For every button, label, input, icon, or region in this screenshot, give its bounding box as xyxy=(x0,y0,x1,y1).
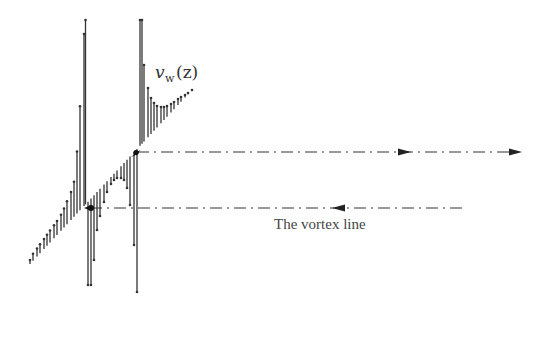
arrow-right-icon xyxy=(509,149,522,156)
vortex-line-label: The vortex line xyxy=(274,216,366,232)
arrow-right-icon xyxy=(398,149,411,156)
svg-text:w: w xyxy=(165,72,175,85)
upper-vortex-dot xyxy=(133,150,138,155)
vortex-velocity-diagram: v w (z) The vortex line xyxy=(0,0,548,356)
upper-vortex-line xyxy=(137,149,522,156)
lower-vortex-line xyxy=(90,205,465,212)
arrow-left-icon xyxy=(332,205,345,212)
svg-text:v: v xyxy=(155,62,165,82)
velocity-label: v w (z) xyxy=(155,62,198,85)
velocity-stems xyxy=(29,19,194,294)
svg-text:(z): (z) xyxy=(176,62,198,82)
